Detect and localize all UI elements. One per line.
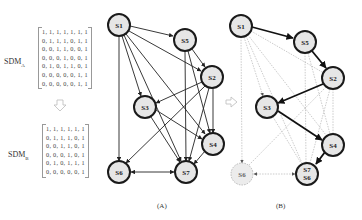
- node-a-s1-label: S1: [115, 22, 123, 30]
- node-b-s4-label: S4: [329, 142, 337, 150]
- diagram-canvas: SDMA 1, 1, 1, 1, 1, 1, 1 0, 1, 1, 1, 0, …: [0, 0, 362, 220]
- node-b-s5-label: S5: [301, 39, 309, 47]
- graph-a-labels: S1 S5 S2 S3 S4 S6 S7: [115, 22, 217, 177]
- node-b-s6-merged-label: S6: [303, 174, 311, 182]
- down-arrow-icon: [54, 100, 66, 111]
- node-b-s2-label: S2: [329, 75, 337, 83]
- graph-b-labels: S1 S5 S2 S3 S4 S6 S7 S6: [237, 23, 337, 182]
- node-b-s7-label: S7: [303, 166, 311, 174]
- right-arrow-icon: [226, 97, 237, 107]
- node-a-s6-label: S6: [115, 169, 123, 177]
- node-b-s3-label: S3: [263, 104, 271, 112]
- graph-a-caption: (A): [157, 202, 167, 210]
- node-b-s6-label: S6: [238, 171, 246, 179]
- node-a-s2-label: S2: [208, 74, 216, 82]
- node-a-s7-label: S7: [182, 169, 190, 177]
- node-b-s1-label: S1: [237, 23, 245, 31]
- node-a-s5-label: S5: [181, 37, 189, 45]
- graph-b-caption: (B): [276, 202, 285, 210]
- node-a-s3-label: S3: [141, 104, 149, 112]
- node-a-s4-label: S4: [209, 141, 217, 149]
- graph-svg: S1 S5 S2 S3 S4 S6 S7: [0, 0, 362, 220]
- graph-a-edges: [119, 26, 213, 172]
- graph-b-faded-edges: [241, 31, 333, 174]
